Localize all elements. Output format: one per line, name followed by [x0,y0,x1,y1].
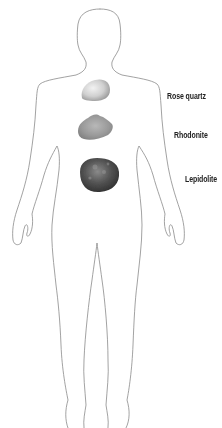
label-rhodonite: Rhodonite [174,130,208,140]
stone-rhodonite [78,115,113,140]
body-outline [13,9,185,428]
label-rose-quartz: Rose quartz [167,91,206,101]
body-diagram [0,0,222,428]
label-lepidolite: Lepidolite [185,174,217,184]
stone-lepidolite [80,158,119,192]
stone-rose-quartz [82,79,110,101]
